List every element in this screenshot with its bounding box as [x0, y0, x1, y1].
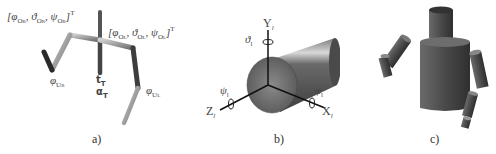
caption-b: b): [274, 132, 284, 147]
label-z-axis: Zl: [206, 104, 215, 120]
caption-a: a): [92, 132, 101, 147]
label-y-axis: Yl: [263, 16, 274, 32]
left-hand-cylinder: [461, 115, 472, 128]
right-forearm: [44, 52, 52, 70]
left-forearm: [124, 88, 138, 123]
head-top: [429, 7, 453, 14]
torso-cylinder: [420, 38, 470, 111]
label-phi: φl: [315, 84, 323, 99]
label-right-shoulder-angles: [φOR, ϑOR, ψOR]T: [7, 9, 74, 25]
torso-top: [420, 37, 470, 47]
label-theta: ϑl: [245, 33, 252, 48]
label-psi: ψl: [220, 84, 229, 99]
panel-c: c): [340, 0, 496, 154]
cylinder-face: [247, 57, 297, 113]
caption-c: c): [430, 132, 439, 147]
left-shoulder-segment: [100, 40, 133, 48]
label-x-axis: Xl: [322, 104, 333, 120]
right-upper-arm: [52, 35, 70, 70]
label-torso-rotation: αT: [96, 86, 108, 100]
panel-a: [φOR, ϑOR, ψOR]T [φOL, ϑOL, ψOL]T φUR φU…: [0, 0, 170, 154]
label-left-shoulder-angles: [φOL, ϑOL, ψOL]T: [108, 25, 175, 41]
body-model-diagram: [340, 0, 496, 154]
panel-b: Yl ϑl φl Xl ψl Zl b): [200, 0, 340, 154]
label-right-elbow-angle: φUR: [50, 74, 65, 89]
label-left-elbow-angle: φUL: [146, 84, 160, 99]
left-upper-arm-cylinder: [469, 49, 489, 89]
head-cylinder: [429, 10, 453, 38]
left-upper-arm: [133, 48, 138, 88]
right-shoulder-segment: [70, 35, 100, 40]
